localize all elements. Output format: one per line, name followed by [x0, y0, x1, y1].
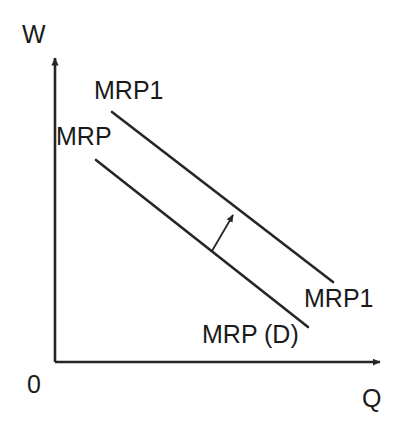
shift-arrow — [212, 215, 233, 251]
economics-diagram-figure: W Q 0 MRP1 MRP MRP1 MRP (D) — [0, 0, 402, 440]
origin-label: 0 — [27, 372, 41, 397]
x-axis-label: Q — [362, 386, 381, 411]
y-axis-label: W — [22, 22, 46, 47]
mrp-curve-label-end: MRP (D) — [202, 322, 299, 347]
mrp1-curve-label-end: MRP1 — [304, 286, 373, 311]
mrp-curve-label-top: MRP — [56, 124, 112, 149]
mrp1-curve — [112, 112, 333, 282]
mrp-curve — [96, 160, 308, 327]
diagram-canvas — [0, 0, 402, 440]
mrp1-curve-label-top: MRP1 — [94, 78, 163, 103]
